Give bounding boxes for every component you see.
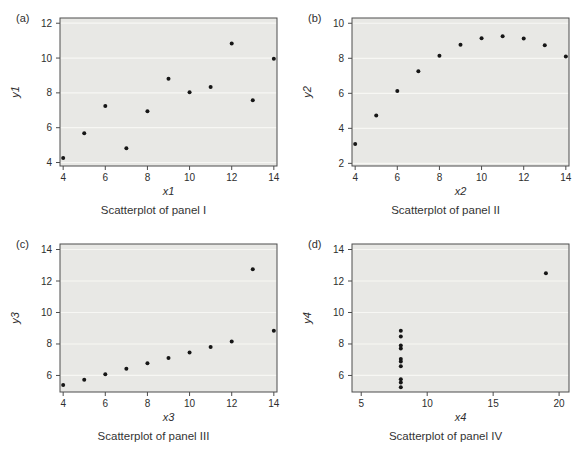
y-tick-label: 12 bbox=[333, 276, 345, 287]
x-tick-label: 10 bbox=[184, 398, 196, 409]
x-tick-label: 6 bbox=[395, 172, 401, 183]
x-tick-label: 6 bbox=[103, 398, 109, 409]
data-point bbox=[82, 378, 86, 382]
data-point bbox=[167, 77, 171, 81]
x-tick-label: 20 bbox=[554, 398, 566, 409]
data-point bbox=[272, 57, 276, 61]
x-tick-label: 12 bbox=[518, 172, 530, 183]
x-tick-label: 6 bbox=[103, 172, 109, 183]
panel-b-letter: (b) bbox=[308, 12, 321, 24]
data-point bbox=[395, 89, 399, 93]
y-tick-label: 4 bbox=[46, 157, 52, 168]
data-point bbox=[544, 271, 548, 275]
data-point bbox=[124, 146, 128, 150]
panel-d: 510152068101214 (d) y4 x4 Scatterplot of… bbox=[292, 226, 583, 451]
x-tick-label: 10 bbox=[422, 398, 434, 409]
data-point bbox=[399, 385, 403, 389]
data-point bbox=[103, 372, 107, 376]
data-point bbox=[564, 55, 568, 59]
x-tick-label: 4 bbox=[60, 172, 66, 183]
y-tick-label: 6 bbox=[338, 370, 344, 381]
y-tick-label: 6 bbox=[46, 370, 52, 381]
data-point bbox=[251, 98, 255, 102]
data-point bbox=[459, 43, 463, 47]
panel-a-caption: Scatterplot of panel I bbox=[30, 204, 277, 216]
plot-area bbox=[60, 18, 277, 166]
x-tick-label: 14 bbox=[268, 172, 280, 183]
data-point bbox=[145, 109, 149, 113]
panel-a-x-axis-label: x1 bbox=[60, 185, 277, 197]
y-tick-label: 10 bbox=[333, 18, 345, 29]
data-point bbox=[145, 361, 149, 365]
x-tick-label: 14 bbox=[268, 398, 280, 409]
y-tick-label: 10 bbox=[41, 307, 53, 318]
data-point bbox=[353, 142, 357, 146]
data-point bbox=[399, 329, 403, 333]
data-point bbox=[103, 104, 107, 108]
panel-b: 468101214246810 (b) y2 x2 Scatterplot of… bbox=[292, 0, 583, 225]
data-point bbox=[399, 364, 403, 368]
data-point bbox=[501, 34, 505, 38]
y-tick-label: 10 bbox=[41, 53, 53, 64]
y-tick-label: 10 bbox=[333, 307, 345, 318]
panel-a: 4681012144681012 (a) y1 x1 Scatterplot o… bbox=[0, 0, 291, 225]
data-point bbox=[188, 90, 192, 94]
x-tick-label: 14 bbox=[560, 172, 572, 183]
data-point bbox=[416, 69, 420, 73]
data-point bbox=[399, 343, 403, 347]
data-point bbox=[230, 41, 234, 45]
data-point bbox=[61, 383, 65, 387]
panel-b-y-axis-label: y2 bbox=[301, 86, 313, 98]
panel-d-letter: (d) bbox=[308, 238, 321, 250]
x-tick-label: 5 bbox=[358, 398, 364, 409]
y-tick-label: 8 bbox=[46, 338, 52, 349]
data-point bbox=[522, 36, 526, 40]
panel-c-x-axis-label: x3 bbox=[60, 411, 277, 423]
data-point bbox=[188, 350, 192, 354]
y-tick-label: 12 bbox=[41, 276, 53, 287]
y-tick-label: 8 bbox=[46, 87, 52, 98]
panel-d-y-axis-label: y4 bbox=[301, 312, 313, 324]
anscombe-quartet-figure: 4681012144681012 (a) y1 x1 Scatterplot o… bbox=[0, 0, 583, 451]
panel-a-y-axis-label: y1 bbox=[9, 86, 21, 98]
x-tick-label: 12 bbox=[226, 398, 238, 409]
data-point bbox=[437, 54, 441, 58]
y-tick-label: 2 bbox=[338, 158, 344, 169]
data-point bbox=[543, 43, 547, 47]
panel-c-y-axis-label: y3 bbox=[9, 312, 21, 324]
data-point bbox=[209, 85, 213, 89]
x-tick-label: 8 bbox=[145, 172, 151, 183]
data-point bbox=[374, 113, 378, 117]
data-point bbox=[272, 329, 276, 333]
data-point bbox=[124, 367, 128, 371]
plot-area bbox=[352, 18, 569, 166]
panel-d-x-axis-label: x4 bbox=[352, 411, 569, 423]
data-point bbox=[209, 345, 213, 349]
y-tick-label: 6 bbox=[338, 88, 344, 99]
y-tick-label: 12 bbox=[41, 18, 53, 29]
panel-c-caption: Scatterplot of panel III bbox=[30, 430, 277, 442]
panel-b-x-axis-label: x2 bbox=[352, 185, 569, 197]
y-tick-label: 14 bbox=[41, 244, 53, 255]
data-point bbox=[82, 131, 86, 135]
data-point bbox=[399, 380, 403, 384]
data-point bbox=[167, 356, 171, 360]
panel-b-caption: Scatterplot of panel II bbox=[322, 204, 569, 216]
y-tick-label: 6 bbox=[46, 122, 52, 133]
x-tick-label: 10 bbox=[476, 172, 488, 183]
x-tick-label: 4 bbox=[60, 398, 66, 409]
x-tick-label: 10 bbox=[184, 172, 196, 183]
y-tick-label: 4 bbox=[338, 123, 344, 134]
data-point bbox=[230, 340, 234, 344]
panel-c-letter: (c) bbox=[16, 238, 29, 250]
x-tick-label: 8 bbox=[145, 398, 151, 409]
x-tick-label: 4 bbox=[352, 172, 358, 183]
y-tick-label: 8 bbox=[338, 338, 344, 349]
data-point bbox=[399, 359, 403, 363]
y-tick-label: 8 bbox=[338, 53, 344, 64]
data-point bbox=[61, 156, 65, 160]
x-tick-label: 15 bbox=[488, 398, 500, 409]
data-point bbox=[251, 267, 255, 271]
panel-c: 46810121468101214 (c) y3 x3 Scatterplot … bbox=[0, 226, 291, 451]
data-point bbox=[480, 36, 484, 40]
